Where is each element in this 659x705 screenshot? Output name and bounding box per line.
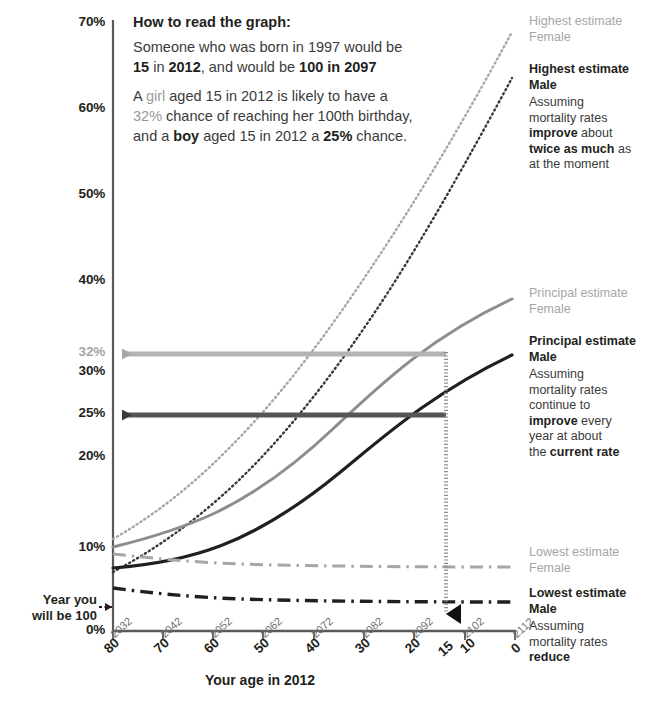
how-to-read-box: How to read the graph: Someone who was b… [133,14,503,146]
series-lowest-estimate-female [113,554,516,567]
legend-prin-m-b7: the [529,445,550,459]
legend-low-m-b3: reduce [529,650,570,664]
howto-l1b: 15 [133,59,149,75]
legend-prin-m-b5: every [578,414,612,428]
legend-high-m-b5: twice as much [529,142,614,156]
legend-low-m-title2: Male [529,602,647,618]
howto-l1e: , and would be [201,59,299,75]
legend-highest-estimate-female: Highest estimate Female [529,14,647,45]
year-note-line1: Year you [43,592,97,607]
how-to-read-paragraph-2: A girl aged 15 in 2012 is likely to have… [133,86,503,146]
legend-prin-m-title1: Principal estimate [529,334,647,350]
howto-25pct: 25% [323,128,352,144]
legend-high-m-body: Assuming mortality rates improve about t… [529,95,647,173]
legend-prin-f-title2: Female [529,302,647,318]
legend-high-f-title1: Highest estimate [529,14,647,30]
legend-highest-estimate-male: Highest estimate Male Assuming mortality… [529,62,647,173]
legend-low-m-b1: Assuming [529,619,584,633]
legend-high-m-b7: at the moment [529,157,609,171]
legend-high-m-title1: Highest estimate [529,62,647,78]
legend-prin-m-b1: Assuming [529,367,584,381]
howto-boy: boy [173,128,199,144]
legend-high-m-b6: as [614,142,631,156]
howto-l1f: 100 in 2097 [299,59,376,75]
legend-high-f-title2: Female [529,30,647,46]
howto-l1a: Someone who was born in 1997 would be [133,39,402,55]
y-tick-10: 10% [53,539,105,554]
howto-32pct: 32% [133,108,162,124]
year-you-will-be-100-note: Year you will be 100 [5,592,97,624]
legend-principal-estimate-female: Principal estimate Female [529,286,647,317]
howto-l1c: in [149,59,168,75]
legend-low-m-b2: mortality rates [529,635,608,649]
legend-low-m-title1: Lowest estimate [529,586,647,602]
legend-prin-m-b4: improve [529,414,578,428]
howto-l3a: chance of reaching her 100th birthday, [162,108,412,124]
x-axis-title: Your age in 2012 [0,672,520,688]
legend-low-m-body: Assuming mortality rates reduce [529,619,647,666]
y-tick-50: 50% [53,186,105,201]
howto-l4c: chance. [352,128,407,144]
legend-prin-m-b2: mortality rates [529,383,608,397]
chart-page: 70% 60% 50% 40% 32% 30% 25% 20% 10% 0% 8… [0,0,659,705]
series-lowest-estimate-male [113,588,516,602]
y-tick-25: 25% [53,405,105,420]
how-to-read-heading: How to read the graph: [133,14,503,30]
legend-high-m-b3: improve [529,126,578,140]
legend-principal-estimate-male: Principal estimate Male Assuming mortali… [529,334,647,460]
y-tick-30: 30% [53,363,105,378]
legend-high-m-b4: about [578,126,613,140]
legend-high-m-title2: Male [529,78,647,94]
legend-high-m-b2: mortality rates [529,111,608,125]
y-tick-0: 0% [53,622,105,637]
howto-l4b: aged 15 in 2012 a [199,128,323,144]
how-to-read-paragraph-1: Someone who was born in 1997 would be 15… [133,37,503,77]
legend-prin-m-body: Assuming mortality rates continue to imp… [529,367,647,460]
howto-l2b: aged 15 in 2012 is likely to have a [165,88,387,104]
legend-low-f-title2: Female [529,561,647,577]
year-note-line2: will be 100 [32,608,97,623]
y-tick-40: 40% [53,272,105,287]
legend-prin-f-title1: Principal estimate [529,286,647,302]
howto-girl: girl [146,88,165,104]
legend-low-f-title1: Lowest estimate [529,545,647,561]
legend-prin-m-title2: Male [529,350,647,366]
y-tick-32: 32% [53,344,105,359]
legend-prin-m-b6: year at about [529,429,602,443]
legend-prin-m-b3: continue to [529,398,590,412]
y-tick-60: 60% [53,100,105,115]
legend-high-m-b1: Assuming [529,95,584,109]
howto-l2a: A [133,88,146,104]
howto-l4a: and a [133,128,173,144]
y-tick-70: 70% [53,14,105,29]
y-tick-20: 20% [53,448,105,463]
legend-prin-m-b8: current rate [550,445,619,459]
howto-l1d: 2012 [168,59,200,75]
legend-lowest-estimate-female: Lowest estimate Female [529,545,647,576]
series-principal-estimate-female [113,299,512,547]
legend-lowest-estimate-male: Lowest estimate Male Assuming mortality … [529,586,647,666]
